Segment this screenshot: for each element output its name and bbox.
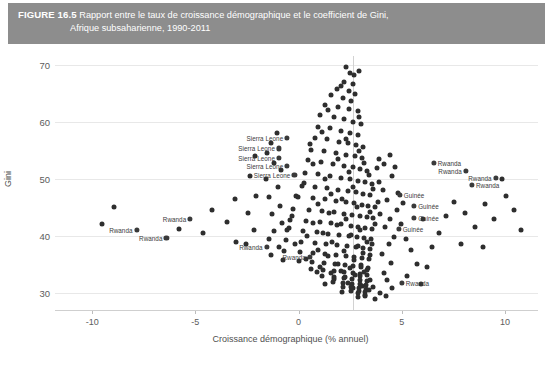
scatter-point (314, 269, 319, 274)
scatter-point (308, 267, 313, 272)
scatter-point (376, 199, 381, 204)
scatter-point (200, 230, 205, 235)
x-axis-line (55, 310, 538, 311)
y-tick-label: 70 (28, 59, 50, 70)
scatter-point (344, 136, 349, 141)
figure-number: FIGURE 16.5 (18, 9, 77, 20)
scatter-point-labeled (396, 226, 401, 231)
scatter-point (403, 236, 408, 241)
scatter-point (304, 218, 309, 223)
scatter-point (357, 213, 362, 218)
scatter-point (307, 142, 312, 147)
scatter-point (414, 262, 419, 267)
scatter-point (373, 296, 378, 301)
point-annotation-label: Guinée (404, 192, 425, 199)
scatter-point (354, 143, 359, 148)
scatter-point (360, 192, 365, 197)
scatter-point (336, 104, 341, 109)
point-annotation-label: Rwanda (406, 280, 429, 287)
scatter-point (311, 220, 316, 225)
scatter-point (444, 213, 449, 218)
scatter-point (347, 265, 352, 270)
scatter-point (381, 270, 386, 275)
scatter-point (320, 230, 325, 235)
scatter-point (252, 228, 257, 233)
scatter-point (339, 289, 344, 294)
scatter-point (365, 239, 370, 244)
scatter-point (329, 221, 334, 226)
scatter-point (491, 216, 496, 221)
scatter-point (387, 152, 392, 157)
y-tick-label: 30 (28, 287, 50, 298)
point-annotation-label: Rwanda (476, 181, 499, 188)
scatter-point (382, 225, 387, 230)
scatter-point-labeled (463, 168, 468, 173)
scatter-point (294, 193, 299, 198)
scatter-point (289, 213, 294, 218)
scatter-point (343, 275, 348, 280)
scatter-point (334, 253, 339, 258)
x-axis-label: Croissance démographique (% annuel) (0, 334, 553, 344)
scatter-point (346, 89, 351, 94)
scatter-point (384, 198, 389, 203)
scatter-point (368, 193, 373, 198)
scatter-point (326, 108, 331, 113)
scatter-point (317, 220, 322, 225)
scatter-point-labeled (276, 155, 281, 160)
plot-area: Sierra LeoneSierra LeoneSierra LeoneSier… (55, 56, 538, 310)
scatter-point (336, 187, 341, 192)
scatter-point (286, 225, 291, 230)
scatter-point (321, 149, 326, 154)
scatter-point (347, 131, 352, 136)
scatter-point (328, 271, 333, 276)
scatter-point (323, 282, 328, 287)
scatter-point-labeled (412, 203, 417, 208)
point-annotation-label: Sierra Leone (55, 145, 275, 152)
scatter-point (358, 121, 363, 126)
scatter-point (483, 202, 488, 207)
scatter-point (473, 225, 478, 230)
scatter-point (370, 241, 375, 246)
scatter-point (291, 206, 296, 211)
scatter-point (314, 230, 319, 235)
scatter-point (346, 141, 351, 146)
scatter-point (283, 238, 288, 243)
scatter-point-labeled (188, 216, 193, 221)
scatter-point (373, 205, 378, 210)
scatter-point (345, 189, 350, 194)
scatter-point (335, 242, 340, 247)
scatter-point (310, 196, 315, 201)
figure-title-line1: Rapport entre le taux de croissance démo… (79, 10, 388, 20)
scatter-point-labeled (399, 281, 404, 286)
scatter-point (325, 186, 330, 191)
scatter-point (343, 253, 348, 258)
scatter-point (353, 190, 358, 195)
scatter-point (350, 119, 355, 124)
scatter-point (382, 162, 387, 167)
scatter-point-labeled (264, 245, 269, 250)
scatter-point (389, 261, 394, 266)
scatter-point (358, 228, 363, 233)
scatter-point (301, 181, 306, 186)
scatter-point (340, 96, 345, 101)
scatter-point (320, 274, 325, 279)
scatter-point (390, 286, 395, 291)
scatter-point (386, 242, 391, 247)
point-annotation-label: Rwanda (55, 215, 186, 222)
scatter-point (368, 278, 373, 283)
scatter-point-labeled (397, 193, 402, 198)
chart-container: Sierra LeoneSierra LeoneSierra LeoneSier… (0, 46, 553, 366)
scatter-point (176, 226, 181, 231)
scatter-point (351, 285, 356, 290)
scatter-point (342, 249, 347, 254)
x-tick-label: -10 (86, 317, 99, 327)
scatter-point (275, 185, 280, 190)
scatter-point (458, 242, 463, 247)
scatter-point (499, 176, 504, 181)
scatter-point (512, 208, 517, 213)
scatter-point (209, 208, 214, 213)
scatter-point (370, 226, 375, 231)
scatter-point (333, 198, 338, 203)
y-tick-label: 60 (28, 116, 50, 127)
scatter-point (355, 243, 360, 248)
